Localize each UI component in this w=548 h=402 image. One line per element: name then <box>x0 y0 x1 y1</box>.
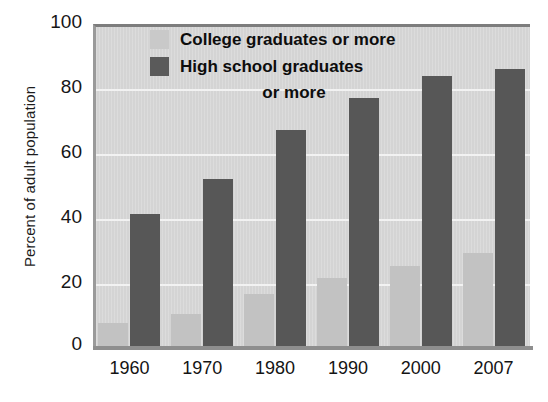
bar-college-1980 <box>244 294 274 346</box>
legend-label: High school graduates <box>180 57 363 77</box>
bar-college-1970 <box>171 314 201 346</box>
legend-swatch-icon <box>150 30 169 49</box>
bar-college-2007 <box>463 253 493 346</box>
legend-entry-college: College graduates or more <box>150 26 408 53</box>
bar-chart-figure: Percent of adult population 100 80 60 40… <box>0 0 548 402</box>
legend-entry-highschool: High school graduates <box>150 53 408 80</box>
bar-highschool-1970 <box>203 179 233 346</box>
bar-college-1960 <box>98 323 128 346</box>
bar-highschool-1980 <box>276 130 306 346</box>
bar-highschool-1960 <box>130 214 160 346</box>
legend-swatch-icon <box>150 57 169 76</box>
legend-label: College graduates or more <box>180 30 395 50</box>
bar-college-1990 <box>317 278 347 346</box>
bar-college-2000 <box>390 266 420 347</box>
chart-legend: College graduates or more High school gr… <box>150 26 408 106</box>
bar-highschool-2000 <box>422 76 452 346</box>
bar-highschool-1990 <box>349 98 379 346</box>
bar-highschool-2007 <box>495 69 525 346</box>
legend-label-continuation: or more <box>180 80 408 106</box>
